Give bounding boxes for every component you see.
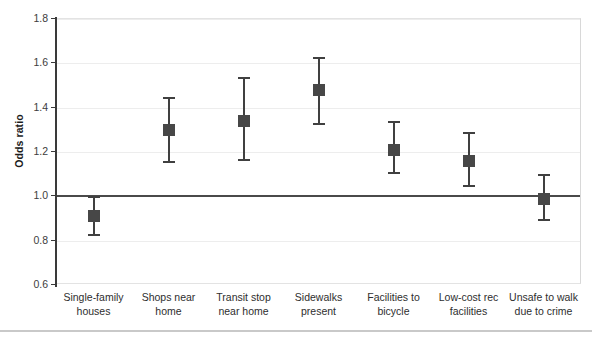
y-axis-title: Odds ratio — [13, 114, 25, 168]
x-axis-label-line: Shops near — [142, 291, 196, 303]
y-tick-mark — [51, 62, 56, 63]
x-axis-label-line: Sidewalks — [295, 291, 342, 303]
y-tick-mark — [51, 18, 56, 19]
y-tick-label: 0.6 — [8, 278, 48, 290]
y-tick-mark — [51, 240, 56, 241]
x-axis-label: Unsafe to walk due to crime — [496, 290, 592, 318]
x-axis-label-line: Facilities to — [367, 291, 420, 303]
x-axis-label-line: Low-cost rec — [439, 291, 499, 303]
y-tick-label: 1.6 — [8, 56, 48, 68]
y-tick-label: 1.4 — [8, 101, 48, 113]
y-tick-label: 1.8 — [8, 12, 48, 24]
x-axis-label-line: Transit stop — [216, 291, 270, 303]
odds-ratio-forest-chart: Odds ratio 1.81.61.41.21.00.80.6 Single-… — [0, 0, 592, 340]
x-axis-label-line: Unsafe to walk — [509, 291, 578, 303]
y-tick-label: 1.0 — [8, 189, 48, 201]
y-tick-mark — [51, 195, 56, 196]
y-axis-ticks: 1.81.61.41.21.00.80.6 — [56, 18, 581, 284]
y-tick-label: 0.8 — [8, 234, 48, 246]
y-tick-mark — [51, 107, 56, 108]
x-axis-category-labels: Single-family housesShops near homeTrans… — [56, 290, 581, 330]
y-tick-label: 1.2 — [8, 145, 48, 157]
bottom-divider — [0, 330, 592, 332]
y-tick-mark — [51, 284, 56, 285]
y-tick-mark — [51, 151, 56, 152]
x-axis-label-line: Single-family — [63, 291, 123, 303]
x-axis-label-line: due to crime — [496, 304, 592, 318]
